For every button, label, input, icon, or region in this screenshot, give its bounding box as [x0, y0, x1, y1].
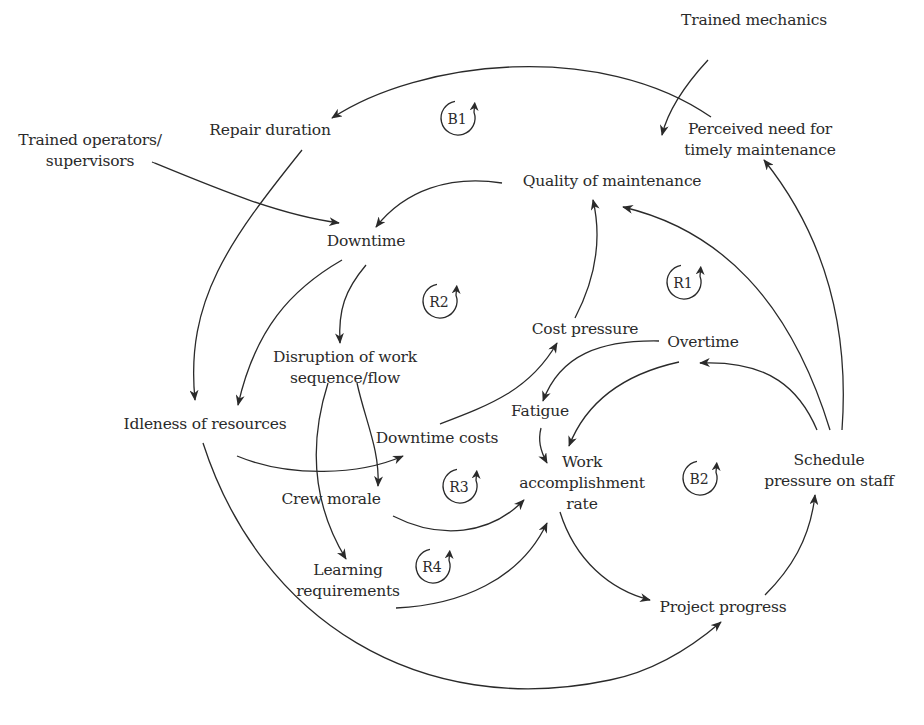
- loop-b1-label: B1: [447, 111, 466, 127]
- loop-r2-label: R2: [429, 294, 448, 310]
- node-project-progress: Project progress: [660, 597, 787, 618]
- node-cost-pressure: Cost pressure: [532, 319, 639, 340]
- loop-r3-label: R3: [449, 479, 468, 495]
- node-overtime: Overtime: [667, 332, 739, 353]
- loop-r4-label: R4: [422, 559, 441, 575]
- node-disruption: Disruption of worksequence/flow: [273, 347, 417, 389]
- loop-r1-label: R1: [673, 275, 692, 291]
- node-trained-mechanics: Trained mechanics: [681, 10, 827, 31]
- node-downtime-costs: Downtime costs: [376, 428, 498, 449]
- loop-b2-label: B2: [689, 471, 708, 487]
- node-learning-requirements: Learningrequirements: [296, 560, 400, 602]
- link-overtime-to-work-rate: [569, 362, 679, 446]
- causal-loop-diagram: B1R2R1R3B2R4Trained mechanicsRepair dura…: [0, 0, 924, 725]
- link-project-progress-to-schedule-pressure: [765, 495, 815, 595]
- node-repair-duration: Repair duration: [209, 120, 330, 141]
- node-schedule-pressure: Schedulepressure on staff: [764, 450, 894, 492]
- node-fatigue: Fatigue: [511, 401, 569, 422]
- link-schedule-pressure-to-quality-maintenance: [623, 207, 830, 430]
- node-trained-operators: Trained operators/supervisors: [18, 130, 162, 172]
- link-schedule-pressure-to-perceived-need: [764, 160, 843, 430]
- node-perceived-need: Perceived need fortimely maintenance: [684, 119, 835, 161]
- link-work-rate-to-project-progress: [560, 512, 650, 600]
- node-crew-morale: Crew morale: [281, 489, 380, 510]
- link-schedule-pressure-to-overtime: [700, 363, 817, 430]
- link-crew-morale-to-work-rate: [393, 500, 524, 531]
- link-trained-operators-to-downtime: [152, 162, 339, 223]
- node-downtime: Downtime: [327, 231, 405, 252]
- link-cost-pressure-to-quality-maintenance: [575, 200, 597, 318]
- link-learning-requirements-to-work-rate: [396, 523, 547, 608]
- link-quality-maintenance-to-downtime: [376, 181, 502, 227]
- link-overtime-to-fatigue: [543, 341, 659, 401]
- link-downtime-to-disruption: [340, 265, 366, 343]
- node-quality-maintenance: Quality of maintenance: [523, 171, 702, 192]
- node-idleness: Idleness of resources: [123, 414, 286, 435]
- link-perceived-need-to-repair-duration: [332, 67, 711, 118]
- node-work-rate: Workaccomplishmentrate: [519, 452, 645, 515]
